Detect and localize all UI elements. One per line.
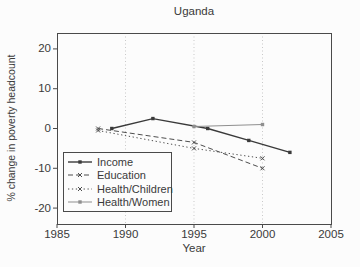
y-tick-label: 0 bbox=[19, 122, 51, 134]
health-children-line-sample-icon bbox=[68, 184, 92, 194]
health-women-line-sample-icon bbox=[68, 197, 92, 207]
legend-item-health-women: Health/Women bbox=[68, 196, 171, 209]
education-line-sample-icon bbox=[68, 170, 92, 180]
x-axis-label: Year bbox=[57, 242, 331, 254]
square-marker bbox=[151, 117, 154, 120]
square-marker bbox=[247, 139, 250, 142]
income-line-sample-icon bbox=[68, 157, 92, 167]
legend-item-income: Income bbox=[68, 155, 171, 168]
y-tick-label: 10 bbox=[19, 82, 51, 94]
x-tick-label: 2005 bbox=[314, 228, 348, 240]
x-tick-label: 1995 bbox=[177, 228, 211, 240]
y-tick-label: 20 bbox=[19, 42, 51, 54]
figure: Uganda % change in poverty headcount 198… bbox=[0, 0, 360, 267]
legend-item-education: Education bbox=[68, 169, 171, 182]
x-tick-label: 2000 bbox=[246, 228, 280, 240]
square-marker bbox=[288, 151, 291, 154]
y-tick-label: -20 bbox=[19, 202, 51, 214]
square-marker bbox=[78, 201, 81, 204]
square-marker bbox=[192, 125, 195, 128]
square-marker bbox=[78, 160, 81, 163]
square-marker bbox=[206, 127, 209, 130]
square-marker bbox=[261, 123, 264, 126]
legend-label: Income bbox=[97, 156, 133, 168]
legend: Income Education Health/Children Health/… bbox=[63, 152, 172, 212]
x-tick-label: 1990 bbox=[109, 228, 143, 240]
x-tick-label: 1985 bbox=[40, 228, 74, 240]
y-tick-label: -10 bbox=[19, 162, 51, 174]
legend-item-health-children: Health/Children bbox=[68, 182, 171, 195]
legend-label: Health/Women bbox=[97, 196, 170, 208]
legend-label: Education bbox=[97, 169, 146, 181]
series-line bbox=[194, 125, 263, 127]
legend-label: Health/Children bbox=[97, 183, 173, 195]
chart-svg bbox=[0, 0, 360, 267]
square-marker bbox=[110, 127, 113, 130]
